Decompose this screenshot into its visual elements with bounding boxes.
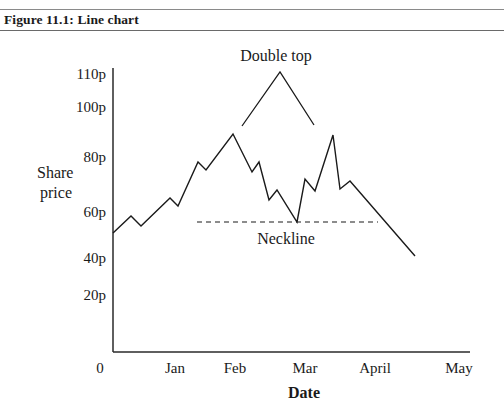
neckline-label: Neckline [257, 230, 315, 247]
x-tick-labels: 0JanFebMarAprilMay [96, 360, 473, 376]
double-top-label: Double top [240, 47, 312, 65]
x-tick-label: April [359, 360, 391, 376]
y-axis-label-line1: Share [37, 164, 73, 181]
y-tick-labels: 110p100p80p60p40p20p [76, 66, 106, 303]
y-axis-label-line2: price [40, 184, 72, 202]
x-tick-label: Feb [224, 360, 247, 376]
x-tick-label: May [445, 360, 473, 376]
x-tick-label: Mar [293, 360, 318, 376]
x-tick-label: Jan [165, 360, 185, 376]
line-chart: 110p100p80p60p40p20p 0JanFebMarAprilMay … [0, 0, 504, 415]
y-tick-label: 40p [84, 250, 107, 266]
y-tick-label: 80p [84, 149, 107, 165]
y-tick-label: 60p [84, 204, 107, 220]
y-tick-label: 110p [77, 66, 106, 82]
double-top-caret [242, 72, 314, 126]
y-tick-label: 100p [76, 99, 106, 115]
x-tick-label: 0 [96, 360, 104, 376]
y-tick-label: 20p [84, 287, 107, 303]
x-axis-label: Date [288, 384, 320, 401]
